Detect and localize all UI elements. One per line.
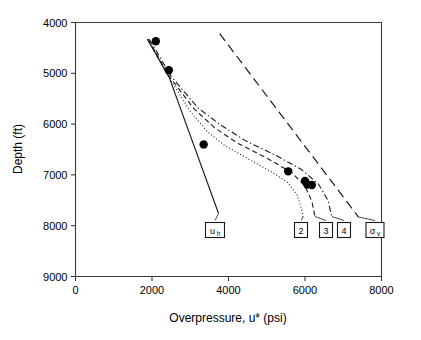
data-point [308,181,316,189]
data-point [199,140,207,148]
y-tick-label: 6000 [43,118,67,130]
y-axis-title: Depth (ft) [11,124,25,174]
y-tick-label: 8000 [43,220,67,232]
callout-label: 2 [298,226,303,236]
data-point [284,167,292,175]
x-tick-label: 0 [72,284,78,296]
y-tick-label: 5000 [43,67,67,79]
data-point [152,37,160,45]
x-tick-label: 6000 [293,284,317,296]
x-tick-label: 4000 [216,284,240,296]
overpressure-depth-chart: 02000400060008000 4000500060007000800090… [0,0,421,340]
data-point [165,66,173,74]
callout-label: σ [370,226,376,236]
y-tick-label: 7000 [43,169,67,181]
x-tick-label: 8000 [369,284,393,296]
callout-label: 3 [323,226,328,236]
callout-sublabel: h [217,230,221,237]
callout-label: u [210,226,215,236]
y-tick-label: 4000 [43,17,67,29]
y-tick-label: 9000 [43,271,67,283]
x-axis-title: Overpressure, u* (psi) [169,311,286,325]
chart-canvas: 02000400060008000 4000500060007000800090… [0,0,421,340]
x-tick-label: 2000 [140,284,164,296]
callout-label: 4 [341,226,346,236]
